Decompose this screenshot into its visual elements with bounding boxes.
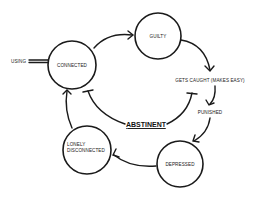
node-guilty-label: GUILTY — [150, 34, 167, 39]
edge-guilty-gets-caught — [181, 40, 214, 71]
edge-abstinent-gets-caught — [167, 93, 197, 124]
node-lonely-label-line2: DISCONNECTED — [67, 148, 106, 153]
node-guilty: GUILTY — [135, 13, 181, 59]
edge-punished-depressed — [193, 118, 210, 142]
node-gets-caught-label: GETS CAUGHT (MAKES EASY) — [175, 78, 245, 83]
edge-lonely-connected — [63, 90, 72, 128]
edge-gets-caught-punished — [206, 86, 215, 105]
edge-depressed-lonely — [113, 149, 156, 166]
node-connected: CONNECTED — [48, 41, 96, 89]
using-connector — [29, 60, 48, 63]
edge-connected-guilty — [94, 31, 133, 48]
edge-abstinent-connected — [83, 90, 125, 124]
node-punished-label: PUNISHED — [198, 110, 223, 115]
node-lonely-disconnected: LONELY DISCONNECTED — [63, 126, 111, 174]
node-lonely-label-line1: LONELY — [67, 142, 85, 147]
cycle-diagram: USING CONNECTED — [0, 0, 256, 198]
using-label: USING — [11, 59, 26, 64]
abstinent-label: ABSTINENT — [126, 121, 167, 128]
node-depressed: DEPRESSED — [157, 141, 203, 187]
node-connected-label: CONNECTED — [57, 63, 88, 68]
node-depressed-label: DEPRESSED — [165, 162, 195, 167]
